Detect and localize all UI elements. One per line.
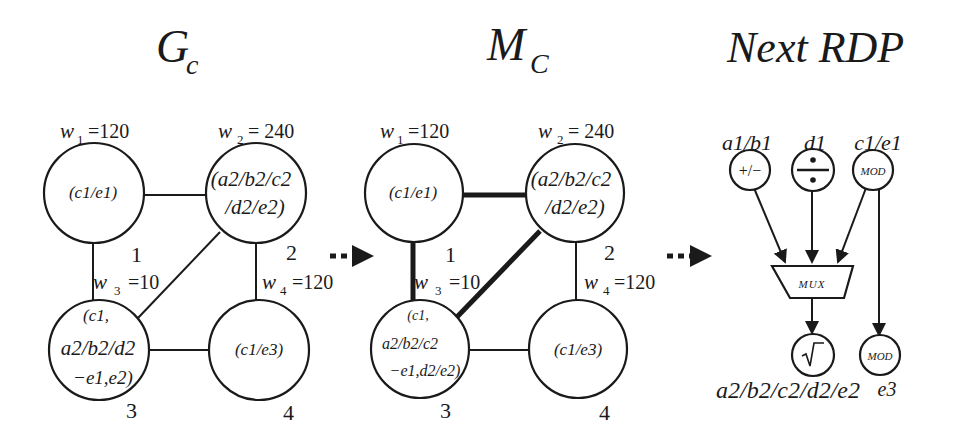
gc-node-1-id: 1 bbox=[131, 242, 142, 267]
mc-node-1-id: 1 bbox=[445, 242, 456, 267]
svg-text:= 240: = 240 bbox=[248, 120, 294, 142]
svg-text:w: w bbox=[414, 270, 428, 294]
rdp-output-label-sqrt: a2/b2/c2/d2/e2 bbox=[716, 377, 860, 403]
svg-text:w: w bbox=[262, 270, 276, 294]
svg-text:C: C bbox=[530, 48, 549, 79]
mc-node-2 bbox=[526, 144, 624, 242]
gc-weight-w4: w 4 =120 bbox=[262, 270, 333, 298]
svg-text:1: 1 bbox=[397, 132, 404, 147]
gc-node-4-id: 4 bbox=[283, 400, 294, 425]
svg-text:=120: =120 bbox=[408, 120, 449, 142]
mc-node-2-id: 2 bbox=[604, 240, 615, 265]
svg-text:w: w bbox=[218, 119, 232, 143]
svg-text:w: w bbox=[538, 119, 552, 143]
svg-text:4: 4 bbox=[280, 283, 287, 298]
svg-text:=10: =10 bbox=[449, 271, 480, 293]
gc-weight-w3: w 3 =10 bbox=[93, 270, 159, 298]
mc-graph: w 1 =120 w 2 = 240 w 3 =10 w 4 =120 (c1/… bbox=[365, 119, 655, 425]
gc-node-2-label-line2: /d2/e2) bbox=[224, 195, 284, 219]
mc-node-3-label-line1: (c1, bbox=[407, 308, 428, 324]
svg-text:3: 3 bbox=[114, 283, 121, 298]
mc-weight-w4: w 4 =120 bbox=[584, 270, 655, 298]
gc-node-4-label: (c1/e3) bbox=[235, 340, 283, 359]
mod-icon-output: MOD bbox=[866, 350, 892, 362]
svg-text:w: w bbox=[584, 270, 598, 294]
gc-node-3-label-line1: (c1, bbox=[83, 306, 109, 325]
svg-text:3: 3 bbox=[435, 283, 442, 298]
mod-icon: MOD bbox=[859, 165, 885, 177]
gc-node-3-label-line2: a2/b2/d2 bbox=[61, 336, 136, 360]
mc-weight-w3: w 3 =10 bbox=[414, 270, 480, 298]
gc-node-1-label: (c1/e1) bbox=[69, 183, 117, 202]
svg-text:2: 2 bbox=[237, 132, 244, 147]
mc-node-4-label: (c1/e3) bbox=[554, 340, 602, 359]
mc-node-3-label-line2: a2/b2/c2 bbox=[382, 335, 438, 352]
svg-text:=120: =120 bbox=[292, 271, 333, 293]
mux-label: MUX bbox=[798, 278, 826, 290]
svg-text:G: G bbox=[156, 21, 189, 72]
diagram-canvas: G c M C Next RDP w 1 =120 w 2 = 240 w 3 bbox=[0, 0, 959, 439]
plus-minus-icon: +/− bbox=[739, 162, 762, 179]
rdp-output-label-mod: e3 bbox=[878, 378, 897, 400]
svg-text:1: 1 bbox=[77, 132, 84, 147]
mc-node-1-label: (c1/e1) bbox=[389, 183, 437, 202]
mc-node-2-label-line1: (a2/b2/c2 bbox=[531, 167, 612, 191]
svg-text:w: w bbox=[380, 119, 394, 143]
svg-text:w: w bbox=[93, 270, 107, 294]
title-mc: M C bbox=[486, 19, 549, 79]
gc-node-2 bbox=[206, 143, 306, 243]
svg-text:w: w bbox=[60, 119, 74, 143]
mc-node-3-id: 3 bbox=[440, 398, 451, 423]
gc-node-2-label-line1: (a2/b2/c2 bbox=[211, 167, 292, 191]
mc-node-2-label-line2: /d2/e2) bbox=[544, 195, 604, 219]
gc-node-2-id: 2 bbox=[286, 240, 297, 265]
transition-arrow-1 bbox=[330, 245, 374, 267]
gc-node-3-id: 3 bbox=[126, 398, 137, 423]
mc-node-3-label-line3: −e1,d2/e2) bbox=[390, 362, 461, 380]
svg-text:4: 4 bbox=[603, 283, 610, 298]
gc-graph: w 1 =120 w 2 = 240 w 3 =10 w 4 =120 (c1/… bbox=[44, 119, 333, 425]
gc-node-3-label-line3: −e1,e2) bbox=[73, 367, 133, 389]
title-gc: G c bbox=[156, 21, 199, 80]
svg-text:c: c bbox=[186, 49, 199, 80]
transition-arrow-2 bbox=[667, 245, 712, 267]
svg-text:= 240: = 240 bbox=[568, 120, 614, 142]
svg-text:2: 2 bbox=[557, 132, 564, 147]
rdp-sqrt-unit bbox=[792, 334, 834, 376]
title-next-rdp: Next RDP bbox=[726, 23, 904, 72]
mc-weight-w2: w 2 = 240 bbox=[538, 119, 614, 147]
svg-text:=10: =10 bbox=[128, 271, 159, 293]
svg-text:M: M bbox=[486, 19, 528, 70]
svg-text:=120: =120 bbox=[88, 120, 129, 142]
mc-weight-w1: w 1 =120 bbox=[380, 119, 449, 147]
svg-text:=120: =120 bbox=[614, 271, 655, 293]
mc-node-4-id: 4 bbox=[599, 400, 610, 425]
rdp-datapath: a1/b1 d1 c1/e1 +/− MOD MUX MOD bbox=[716, 130, 902, 403]
